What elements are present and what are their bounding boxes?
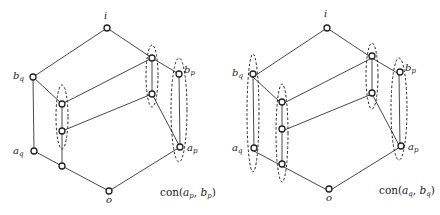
label-i: i [324,8,327,19]
lattice-diagram-left: i bq bp aq ap o con(ap, bp) [13,10,216,205]
label-bq: bq [232,67,243,80]
node-bp [397,69,403,75]
node-R1 [149,55,155,61]
congruence-ellipses [56,45,187,162]
node-L2 [279,126,285,132]
node-labels: i bq bp aq ap o [13,10,198,205]
label-bp: bp [405,62,416,75]
nodes [250,25,404,192]
label-i: i [104,10,107,21]
node-i [104,25,110,31]
label-ap: ap [408,141,419,154]
node-L3 [59,163,65,169]
edges [33,28,180,191]
node-L2 [59,128,65,134]
label-aq: aq [232,142,243,155]
label-bp: bp [184,64,195,77]
caption-right: con(aq, bq) [379,184,435,198]
node-L1 [279,99,285,105]
node-bq [30,74,36,80]
edges [253,28,400,191]
node-L3 [279,161,285,167]
label-bq: bq [13,70,24,83]
label-ap: ap [187,142,198,155]
node-ap [398,143,404,149]
lattice-diagram-right: i bq bp aq ap o con(aq, bq) [232,8,435,203]
congruence-lattice-figure: i bq bp aq ap o con(ap, bp) [0,0,440,215]
node-bp [176,71,182,77]
node-aq [31,148,37,154]
label-aq: aq [13,145,24,158]
node-R2 [149,91,155,97]
node-R2 [369,90,375,96]
node-L1 [59,101,65,107]
node-ap [177,144,183,150]
node-R1 [369,53,375,59]
caption-left: con(ap, bp) [160,186,216,200]
node-aq [251,145,257,151]
node-i [324,25,330,31]
label-o: o [326,192,332,203]
node-bq [250,71,256,77]
label-o: o [106,194,112,205]
